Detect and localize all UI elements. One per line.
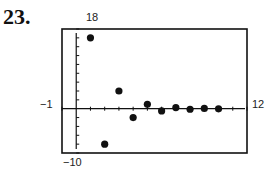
data-point [115, 87, 122, 94]
data-point [186, 106, 193, 113]
data-point [158, 107, 165, 114]
data-point [172, 104, 179, 111]
data-point [201, 105, 208, 112]
data-point [130, 114, 137, 121]
plot-frame [62, 29, 247, 153]
data-point [144, 101, 151, 108]
data-point [215, 105, 222, 112]
data-point [101, 141, 108, 148]
scatter-plot [0, 0, 266, 171]
data-point [87, 34, 94, 41]
